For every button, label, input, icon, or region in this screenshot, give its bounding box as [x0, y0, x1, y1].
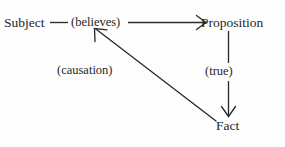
edge-label-true: (true)	[205, 65, 233, 78]
edge-label-believes: (believes)	[71, 16, 120, 29]
edge-fact-subject-segment	[97, 30, 217, 122]
node-subject-label: Subject	[4, 16, 45, 30]
node-fact-label: Fact	[216, 119, 239, 133]
edge-label-causation: (causation)	[57, 64, 113, 77]
belief-diagram: Subject (believes) Proposition (true) Fa…	[0, 0, 285, 147]
arrowhead-to-subject-icon	[95, 29, 108, 42]
node-proposition-label: Proposition	[201, 16, 263, 30]
